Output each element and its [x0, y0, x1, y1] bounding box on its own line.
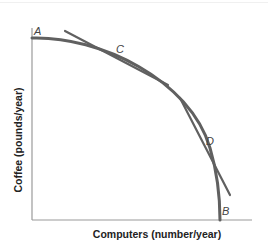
- ppf-curve: [32, 38, 220, 220]
- point-label-d: D: [206, 135, 214, 147]
- tangent-line-d: [180, 98, 230, 195]
- point-label-c: C: [116, 43, 124, 55]
- point-label-b: B: [222, 205, 229, 217]
- point-label-a: A: [33, 25, 41, 37]
- x-axis-label: Computers (number/year): [93, 228, 221, 240]
- ppf-diagram: A B C D Computers (number/year) Coffee (…: [0, 0, 268, 246]
- y-axis-label: Coffee (pounds/year): [12, 87, 24, 192]
- tangent-line-c: [65, 31, 168, 85]
- ppf-graph: A B C D Computers (number/year) Coffee (…: [0, 0, 268, 246]
